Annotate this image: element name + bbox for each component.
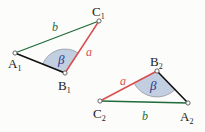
triangle-2-side-b — [100, 101, 188, 103]
vertex-label-c1: C1 — [92, 4, 105, 21]
vertex-marker-c2 — [98, 99, 102, 103]
vertex-label-a1: A1 — [8, 56, 21, 73]
side-label-b-2: b — [142, 109, 148, 123]
triangle-diagram: A1 B1 C1 a b β C2 A2 — [0, 0, 205, 132]
vertex-label-c2: C2 — [93, 106, 106, 123]
triangle-1-side-a — [65, 21, 99, 73]
vertex-marker-a1 — [13, 51, 17, 55]
side-label-a-1: a — [86, 45, 92, 59]
vertex-marker-a2 — [186, 101, 190, 105]
vertex-marker-b1 — [63, 71, 67, 75]
triangle-1: A1 B1 C1 a b β — [8, 4, 105, 95]
side-label-b-1: b — [52, 20, 58, 34]
vertex-label-b1: B1 — [58, 78, 71, 95]
side-label-a-2: a — [120, 74, 126, 88]
angle-label-beta-2: β — [149, 78, 157, 93]
vertex-label-a2: A2 — [180, 109, 193, 126]
angle-label-beta-1: β — [57, 52, 65, 67]
triangle-2: C2 A2 B2 a b β — [93, 54, 193, 126]
geometry-figure: A1 B1 C1 a b β C2 A2 — [0, 0, 205, 132]
vertex-label-b2: B2 — [150, 54, 163, 71]
